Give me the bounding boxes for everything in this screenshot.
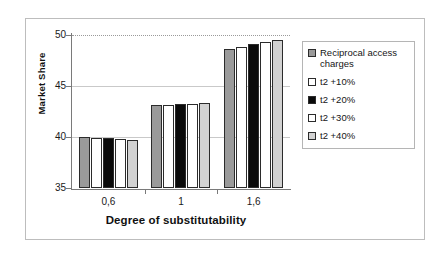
bar <box>260 42 271 188</box>
legend-item: t2 +30% <box>308 112 410 123</box>
y-tick-label: 50 <box>26 29 66 40</box>
x-tick-label: 1 <box>151 196 211 207</box>
y-tick-label: 35 <box>26 182 66 193</box>
chart-legend: Reciprocal access chargest2 +10%t2 +20%t… <box>302 41 415 149</box>
bar <box>79 137 90 188</box>
bar <box>224 49 235 188</box>
legend-item: t2 +10% <box>308 76 410 87</box>
bar <box>272 40 283 188</box>
bar <box>199 103 210 188</box>
bar <box>103 138 114 188</box>
legend-item: t2 +40% <box>308 130 410 141</box>
bar <box>236 47 247 188</box>
bar <box>187 104 198 188</box>
x-tick-label: 1,6 <box>224 196 284 207</box>
legend-label: t2 +40% <box>320 130 355 141</box>
legend-swatch-icon <box>308 96 316 104</box>
legend-swatch-icon <box>308 78 316 86</box>
legend-label: t2 +30% <box>320 112 355 123</box>
legend-swatch-icon <box>308 114 316 122</box>
bar <box>163 105 174 188</box>
bar-group <box>217 35 290 188</box>
bar-group <box>145 35 218 188</box>
bar <box>248 44 259 188</box>
bar <box>175 104 186 188</box>
x-tick-label: 0,6 <box>78 196 138 207</box>
x-tick-mark <box>217 189 218 194</box>
bar <box>115 139 126 188</box>
legend-item: t2 +20% <box>308 94 410 105</box>
legend-label: t2 +20% <box>320 94 355 105</box>
bar <box>151 105 162 188</box>
x-tick-mark <box>145 189 146 194</box>
legend-label: Reciprocal access charges <box>320 47 410 69</box>
bar <box>127 140 138 188</box>
x-axis-line <box>71 189 291 190</box>
legend-label: t2 +10% <box>320 76 355 87</box>
bar-group <box>72 35 145 188</box>
y-tick-mark-35 <box>66 188 72 189</box>
x-axis-title: Degree of substitutability <box>46 214 306 226</box>
y-tick-label: 45 <box>26 80 66 91</box>
y-tick-label: 40 <box>26 131 66 142</box>
legend-item: Reciprocal access charges <box>308 47 410 69</box>
bar-chart-figure: Market Share 50454035 0,611,6 Degree of … <box>0 0 440 256</box>
legend-swatch-icon <box>308 49 316 57</box>
legend-swatch-icon <box>308 132 316 140</box>
bar <box>91 138 102 188</box>
